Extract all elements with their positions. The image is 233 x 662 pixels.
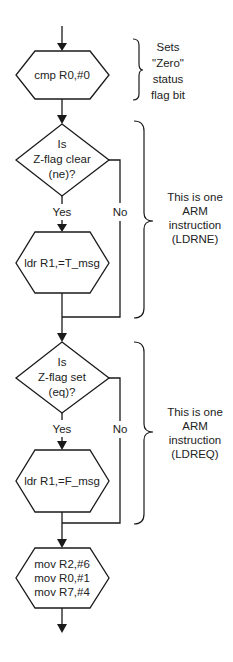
note-ldreq: This is one ARM instruction (LDREQ) xyxy=(167,406,223,460)
node-mov-line-1: mov R2,#6 xyxy=(34,558,90,570)
note-cmp: Sets "Zero" status flag bit xyxy=(151,41,186,101)
svg-text:This is one: This is one xyxy=(167,406,223,418)
decision-eq: Is Z-flag set (eq)? xyxy=(16,342,109,413)
decision-eq-line-2: Z-flag set xyxy=(38,371,87,383)
node-ldr-t: ldr R1,=T_msg xyxy=(16,232,109,293)
decision-ne: Is Z-flag clear (ne)? xyxy=(16,124,109,196)
node-mov-line-2: mov R0,#1 xyxy=(34,572,90,584)
flowchart-canvas: cmp R0,#0 Sets "Zero" status flag bit Is… xyxy=(0,0,233,662)
brace-ldreq-note xyxy=(134,342,153,524)
node-ldr-t-label: ldr R1,=T_msg xyxy=(24,257,100,269)
node-cmp-label: cmp R0,#0 xyxy=(34,69,90,81)
node-mov-line-3: mov R7,#4 xyxy=(34,586,90,598)
decision-ne-line-1: Is xyxy=(58,138,67,150)
node-ldr-f-label: ldr R1,=F_msg xyxy=(24,475,100,487)
arrow-ldr-f-to-mov xyxy=(57,512,67,548)
brace-cmp-note xyxy=(133,39,143,100)
svg-text:instruction: instruction xyxy=(169,219,221,231)
svg-text:(LDRNE): (LDRNE) xyxy=(172,233,219,245)
svg-text:flag bit: flag bit xyxy=(151,89,186,101)
svg-text:status: status xyxy=(153,73,184,85)
decision-eq-line-1: Is xyxy=(58,356,67,368)
svg-text:This is one: This is one xyxy=(167,191,223,203)
svg-text:ARM: ARM xyxy=(182,205,208,217)
edge-ne-yes: Yes xyxy=(53,196,72,232)
decision-ne-line-3: (ne)? xyxy=(49,168,76,180)
entry-arrow xyxy=(57,26,67,51)
edge-ne-yes-label: Yes xyxy=(53,206,72,218)
svg-text:instruction: instruction xyxy=(169,434,221,446)
svg-text:(LDREQ): (LDREQ) xyxy=(171,448,218,460)
node-ldr-f: ldr R1,=F_msg xyxy=(16,450,109,512)
svg-text:ARM: ARM xyxy=(182,420,208,432)
svg-text:Sets: Sets xyxy=(156,41,179,53)
edge-eq-yes: Yes xyxy=(53,413,72,450)
svg-text:"Zero": "Zero" xyxy=(152,57,184,69)
node-cmp: cmp R0,#0 xyxy=(16,51,109,99)
node-mov-block: mov R2,#6 mov R0,#1 mov R7,#4 xyxy=(16,548,109,608)
exit-arrow xyxy=(57,608,67,633)
brace-ldrne-note xyxy=(134,121,153,318)
decision-eq-line-3: (eq)? xyxy=(49,386,76,398)
edge-ne-no-label: No xyxy=(113,206,128,218)
note-ldrne: This is one ARM instruction (LDRNE) xyxy=(167,191,223,245)
edge-eq-no-label: No xyxy=(113,423,128,435)
arrow-cmp-to-decision-ne xyxy=(57,99,67,124)
edge-eq-yes-label: Yes xyxy=(53,423,72,435)
decision-ne-line-2: Z-flag clear xyxy=(33,153,91,165)
